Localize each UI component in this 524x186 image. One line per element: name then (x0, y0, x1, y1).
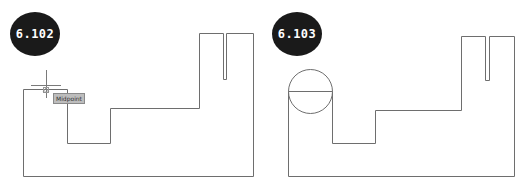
part-outline (289, 37, 515, 177)
figure-6-103: 6.103 (262, 0, 524, 186)
part-outline (24, 34, 254, 177)
figure-number-badge: 6.103 (272, 12, 322, 56)
figure-number-badge: 6.102 (10, 12, 60, 56)
figure-6-102: 6.102 Midpoint (0, 0, 262, 186)
snap-tooltip-midpoint: Midpoint (53, 93, 85, 104)
